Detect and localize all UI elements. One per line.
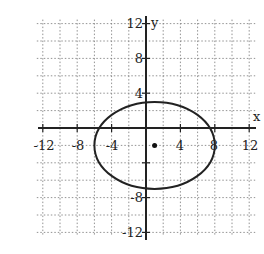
y-tick-label: 4 xyxy=(135,86,143,101)
x-tick-label: -4 xyxy=(106,138,119,153)
x-tick-label: 4 xyxy=(176,138,184,153)
ellipse-graph: x y -12 -8 -4 4 8 12 12 8 4 -8 -12 xyxy=(0,0,264,254)
x-tick-label: -12 xyxy=(34,138,55,153)
x-tick-label: -8 xyxy=(72,138,85,153)
y-tick-label: 8 xyxy=(135,51,143,66)
y-axis-label: y xyxy=(150,15,159,30)
x-axis-label: x xyxy=(253,109,261,124)
center-point xyxy=(152,143,157,148)
y-tick-label: 12 xyxy=(126,16,143,31)
x-tick-label: 12 xyxy=(242,138,259,153)
y-tick-label: -8 xyxy=(130,190,143,205)
x-tick-label: 8 xyxy=(210,138,218,153)
axes xyxy=(38,16,256,240)
y-tick-label: -12 xyxy=(122,225,143,240)
